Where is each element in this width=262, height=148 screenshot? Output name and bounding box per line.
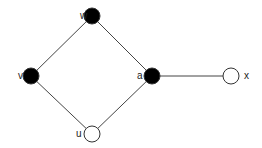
graph-diagram: wvaxu <box>0 0 262 148</box>
node-label-a: a <box>137 70 143 81</box>
edge-w-a <box>92 16 152 76</box>
edge-a-u <box>92 76 152 134</box>
edge-w-v <box>31 16 92 76</box>
node-a <box>144 68 160 84</box>
edges <box>31 16 231 134</box>
node-label-w: w <box>79 10 88 21</box>
node-u <box>84 126 100 142</box>
node-label-v: v <box>18 70 23 81</box>
node-v <box>23 68 39 84</box>
node-x <box>223 68 239 84</box>
nodes: wvaxu <box>18 8 249 142</box>
edge-v-u <box>31 76 92 134</box>
node-label-x: x <box>244 70 249 81</box>
node-label-u: u <box>76 128 82 139</box>
